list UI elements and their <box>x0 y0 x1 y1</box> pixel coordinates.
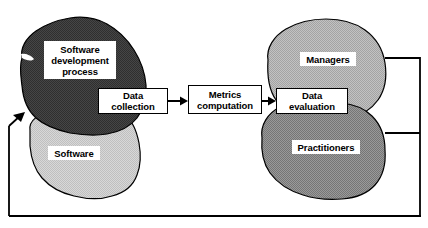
arrow-collection-to-metrics <box>168 97 188 106</box>
arrow-metrics-to-evaluation <box>262 97 276 106</box>
blob-label-practitioners: Practitioners <box>292 140 360 154</box>
blob-label-software-development-process: Software development process <box>44 41 116 79</box>
blob-label-software: Software <box>48 146 100 160</box>
diagram-graphics <box>0 0 428 228</box>
diagram-canvas: Software development process Software Ma… <box>0 0 428 228</box>
process-box-metrics-computation[interactable]: Metrics computation <box>188 85 262 114</box>
blob-label-managers: Managers <box>300 52 356 66</box>
process-box-data-collection[interactable]: Data collection <box>98 88 168 114</box>
process-box-data-evaluation[interactable]: Data evaluation <box>276 88 348 114</box>
